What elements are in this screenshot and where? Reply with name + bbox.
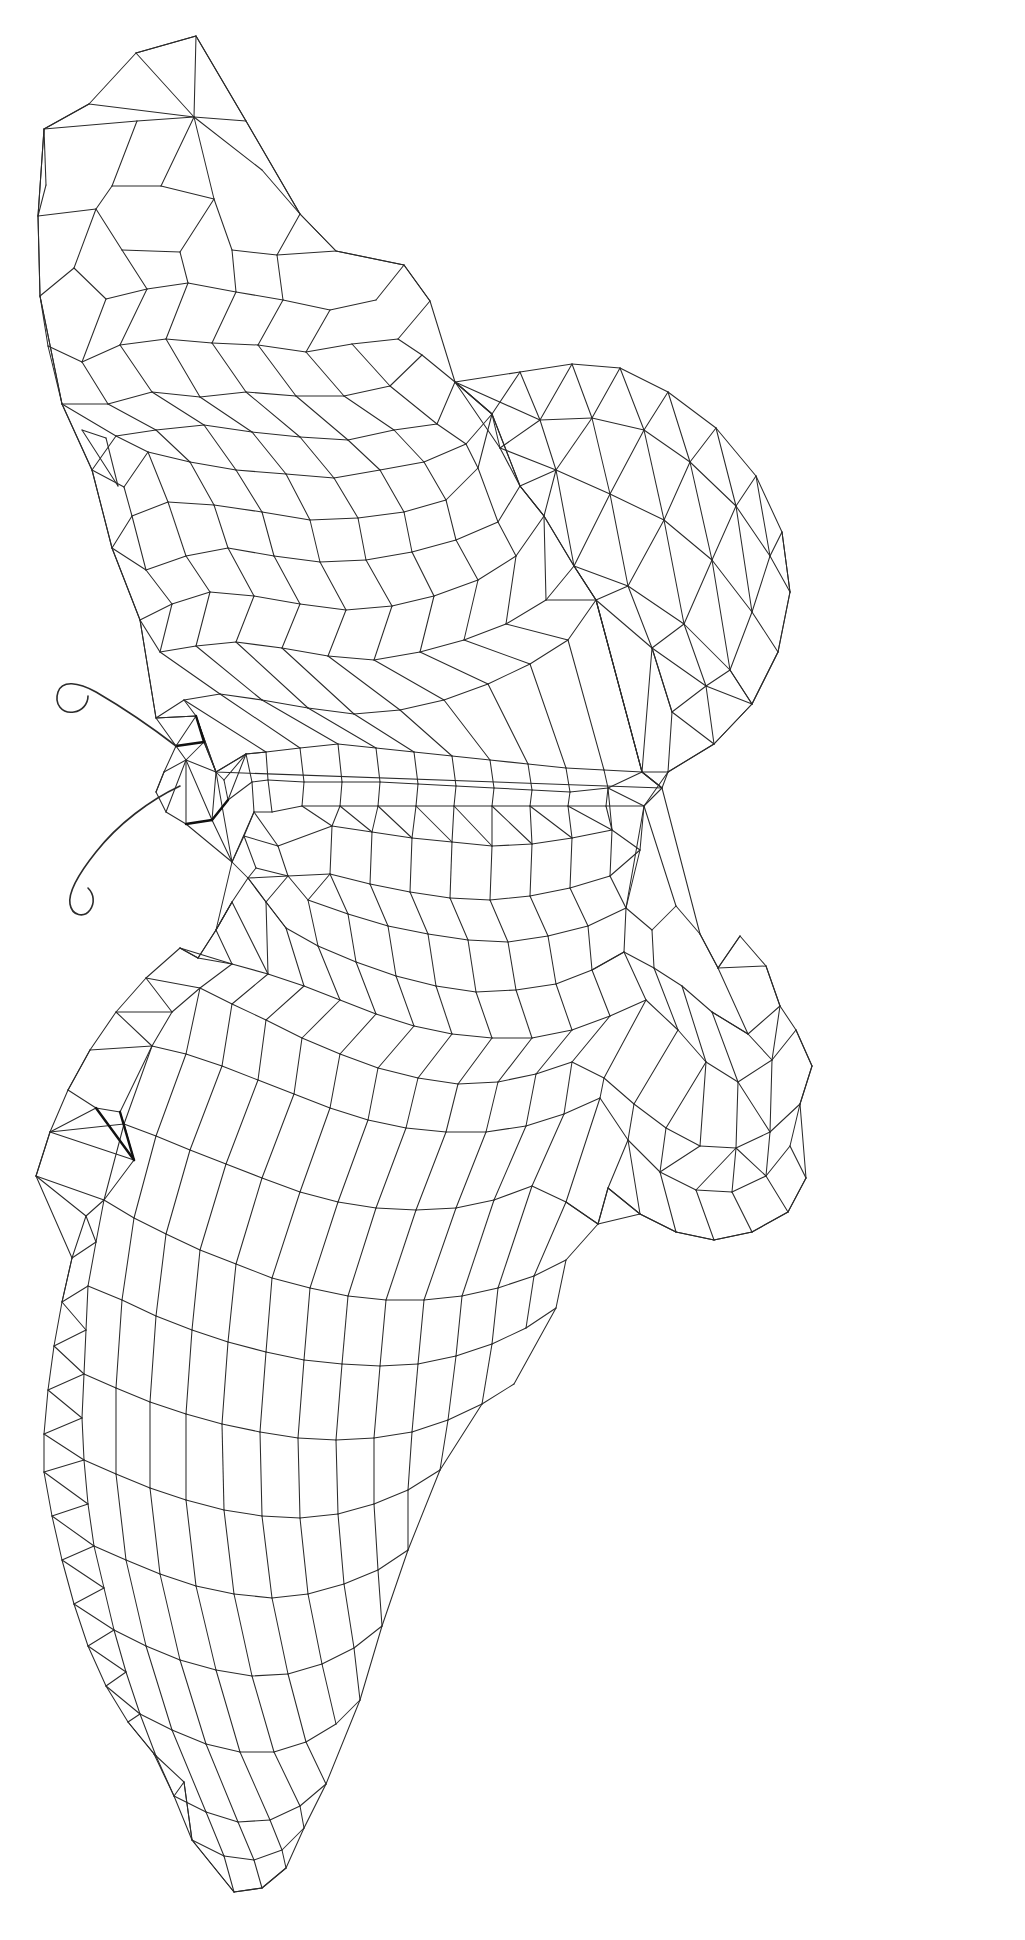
butterfly-lowpoly-illustration [0,0,1025,1940]
artwork-canvas: Low-poly triangulated butterfly line dra… [0,0,1025,1940]
